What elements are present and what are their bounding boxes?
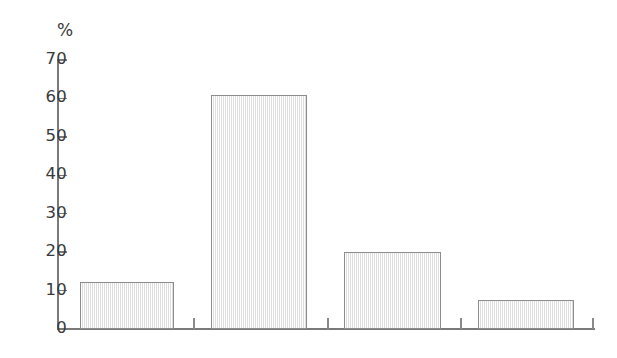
bar-2: [211, 95, 307, 329]
y-tick-label: 70: [23, 51, 67, 68]
y-tick-label: 30: [23, 205, 67, 222]
x-tick-mark-3: [460, 318, 462, 329]
plot-area: % 010203040506070: [0, 0, 617, 358]
y-tick-label: 60: [23, 89, 67, 106]
y-tick-label: 0: [23, 320, 67, 337]
y-tick-label: 40: [23, 166, 67, 183]
y-axis-unit-label: %: [57, 22, 73, 39]
y-tick-label: 10: [23, 282, 67, 299]
x-tick-mark-4: [592, 318, 594, 329]
y-tick-label: 20: [23, 243, 67, 260]
bar-3: [344, 252, 441, 329]
y-tick-label: 50: [23, 128, 67, 145]
x-tick-mark-2: [327, 318, 329, 329]
bar-1: [80, 282, 174, 329]
bar-4: [478, 300, 574, 329]
x-tick-mark-1: [193, 318, 195, 329]
bar-chart: % 010203040506070: [0, 0, 617, 358]
